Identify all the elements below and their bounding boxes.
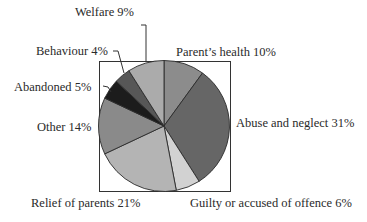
label-relief-of-parents: Relief of parents 21% (31, 196, 140, 210)
welfare-leader-line (141, 25, 146, 62)
label-abandoned: Abandoned 5% (14, 80, 91, 94)
label-parents-health: Parent’s health 10% (176, 45, 276, 59)
label-other: Other 14% (37, 120, 92, 134)
pie-slices (98, 61, 229, 192)
label-abuse-and-neglect: Abuse and neglect 31% (236, 116, 354, 130)
label-behaviour: Behaviour 4% (36, 44, 108, 58)
label-welfare: Welfare 9% (75, 5, 134, 19)
label-guilty-or-accused: Guilty or accused of offence 6% (190, 196, 352, 210)
pie-chart (0, 0, 367, 222)
